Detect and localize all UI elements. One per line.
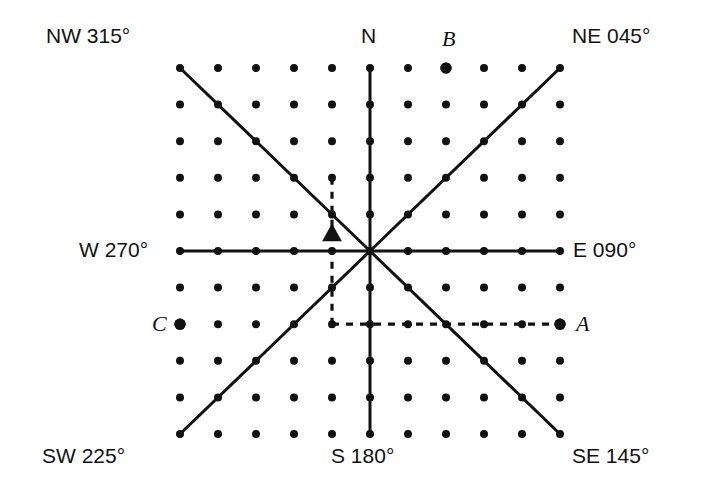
grid-dot [442,284,450,292]
grid-dot [176,137,184,145]
point-label-b: B [442,26,455,52]
grid-dot [290,284,298,292]
grid-dot [404,174,412,182]
marker-layer [322,223,342,241]
label-e: E 090° [573,238,636,262]
grid-dot [442,137,450,145]
grid-dot [214,174,222,182]
bearing-line-ne [370,68,560,251]
grid-dot [214,430,222,438]
grid-dot [252,101,260,109]
grid-dot [480,101,488,109]
grid-dot [556,101,564,109]
grid-dot [518,357,526,365]
grid-dot [176,101,184,109]
grid-dot [252,174,260,182]
grid-dot [328,430,336,438]
grid-dot [556,210,564,218]
grid-dot [518,284,526,292]
grid-dot [556,174,564,182]
grid-dot [328,101,336,109]
grid-dot [480,210,488,218]
grid-dot [328,137,336,145]
grid-dot [214,284,222,292]
grid-dot [290,64,298,72]
grid-dot [252,430,260,438]
grid-dot [252,64,260,72]
grid-dot [176,174,184,182]
grid-dot [518,174,526,182]
grid-dot [556,137,564,145]
grid-dot [328,64,336,72]
grid-dot [518,210,526,218]
grid-dot [442,430,450,438]
grid-dot [176,210,184,218]
grid-dot [480,430,488,438]
grid-dot [480,284,488,292]
grid-dot [442,101,450,109]
grid-dot [328,393,336,401]
label-w: W 270° [79,238,148,262]
grid-dot [214,320,222,328]
grid-dot [214,210,222,218]
point-label-c: C [152,311,167,337]
grid-dot [480,174,488,182]
grid-dot [404,64,412,72]
grid-dot [442,393,450,401]
grid-dot [252,210,260,218]
grid-dot [404,393,412,401]
grid-dot [328,357,336,365]
grid-dot [290,357,298,365]
grid-dot [404,137,412,145]
grid-dot [252,320,260,328]
grid-dot [290,430,298,438]
grid-dot [176,357,184,365]
grid-dot [480,64,488,72]
grid-dot [518,64,526,72]
compass-grid-figure: NW 315° N NE 045° W 270° E 090° SW 225° … [0,0,710,495]
label-nw: NW 315° [46,24,130,48]
grid-dot [556,284,564,292]
marked-point-a [554,319,565,330]
grid-dot [176,393,184,401]
grid-dot [290,137,298,145]
label-se: SE 145° [572,444,649,468]
grid-dot [252,393,260,401]
grid-dot [480,393,488,401]
point-label-a: A [576,311,589,337]
triangle-marker [322,223,342,241]
bearing-line-nw [180,68,370,251]
grid-dot [252,284,260,292]
grid-dot [214,357,222,365]
label-ne: NE 045° [572,24,650,48]
grid-dot [556,393,564,401]
label-sw: SW 225° [42,444,125,468]
grid-dot [214,64,222,72]
grid-dot [290,210,298,218]
label-n: N [361,24,376,48]
grid-dot [442,357,450,365]
grid-dot [518,137,526,145]
grid-dot [518,430,526,438]
marked-point-c [174,319,185,330]
grid-dot [214,137,222,145]
label-s: S 180° [331,444,394,468]
grid-dot [404,430,412,438]
marked-point-b [440,62,451,73]
bearing-line-layer [180,68,560,434]
grid-dot [556,357,564,365]
grid-dot [176,284,184,292]
grid-dot [290,101,298,109]
bearing-line-sw [180,251,370,434]
grid-dot [404,357,412,365]
bearing-line-se [370,251,560,434]
grid-dot [290,393,298,401]
grid-dot [404,101,412,109]
grid-dot [442,210,450,218]
